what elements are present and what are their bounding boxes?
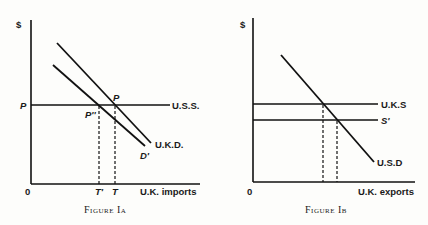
demand-line-ukd (57, 43, 151, 143)
quantity-shifted-label: T' (95, 186, 104, 197)
demand-shifted-label: D' (140, 150, 150, 161)
origin-label: 0 (25, 186, 30, 197)
demand-label: U.S.D (377, 157, 402, 168)
demand-line-usd (281, 55, 374, 162)
demand-label: U.K.D. (155, 139, 184, 150)
y-axis-label: $ (240, 19, 246, 30)
quantity-label: T (112, 186, 119, 197)
supply-label: U.S.S. (172, 100, 199, 111)
x-axis-label: U.K. imports (140, 186, 196, 197)
diagram-canvas: $ P 0 U.S.S. U.K.D. D' P P'' T' T U.K. i… (0, 0, 428, 225)
caption: Figure Ib (305, 204, 347, 215)
y-axis-label: $ (16, 19, 22, 30)
x-axis-label: U.K. exports (358, 186, 414, 197)
origin-label: 0 (247, 186, 252, 197)
intersection-shifted-label: P'' (85, 109, 97, 120)
intersection-label: P (113, 92, 120, 103)
caption: Figure Ia (84, 204, 126, 215)
price-label: P (20, 100, 27, 111)
supply-label: U.K.S (381, 99, 406, 110)
supply-shifted-label: S' (381, 115, 390, 126)
